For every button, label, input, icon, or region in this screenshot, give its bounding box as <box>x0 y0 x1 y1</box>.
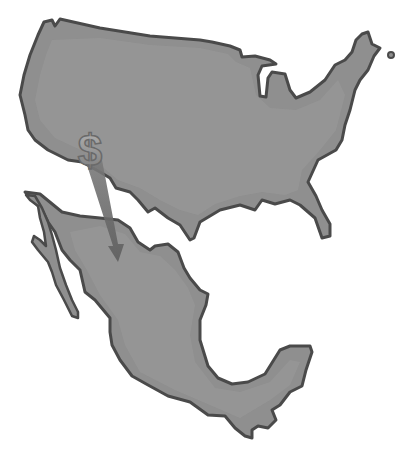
us-mexico-map: $ <box>0 0 417 450</box>
mexico-region <box>25 192 312 438</box>
united-states-region <box>20 19 394 240</box>
svg-text:$: $ <box>78 126 102 175</box>
dollar-sign-icon: $ <box>78 126 102 175</box>
